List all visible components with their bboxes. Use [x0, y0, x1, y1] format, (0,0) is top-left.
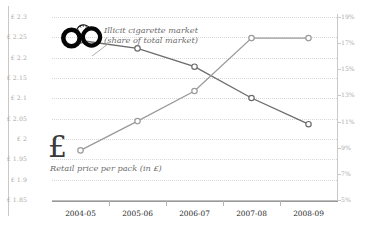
data-point-marker [192, 88, 197, 93]
illicit-annotation-line-1: Illicit cigarette market [104, 25, 254, 35]
data-point-marker [78, 148, 83, 153]
illicit-annotation-line-2: (share of total market) [104, 35, 254, 45]
data-point-marker [306, 35, 311, 40]
data-point-marker [306, 122, 311, 127]
data-point-marker [192, 64, 197, 69]
pound-sign-icon: £ [48, 132, 67, 162]
illicit-series-annotation: Illicit cigarette market (share of total… [104, 25, 254, 45]
handcuffs-icon [58, 20, 108, 50]
data-point-marker [135, 46, 140, 51]
chart-canvas: £ 2.3£ 2.25£ 2.2£ 2.15£ 2.1£ 2.05£ 2£ 1.… [0, 0, 368, 240]
data-point-marker [249, 95, 254, 100]
price-series-annotation: Retail price per pack (in £) [50, 163, 162, 173]
data-point-marker [135, 118, 140, 123]
series-line [81, 41, 309, 125]
